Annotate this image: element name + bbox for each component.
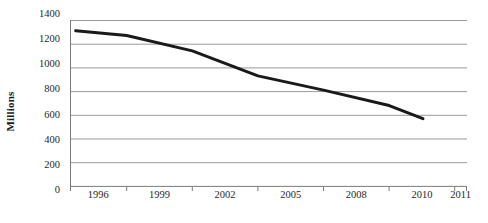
y-tick-label: 1200: [39, 34, 60, 45]
line-chart: Millions 1400 1200 1000 800 600 400 200 …: [0, 0, 488, 223]
y-axis-title: Millions: [2, 0, 18, 223]
x-tick-label: 2002: [215, 190, 236, 201]
x-tick-label: 1999: [149, 190, 170, 201]
x-tick-label: 2010: [411, 190, 432, 201]
x-tick-label: 2005: [280, 190, 301, 201]
x-axis-tick-labels: 1996 1999 2002 2005 2008 2010 2011: [70, 190, 467, 210]
y-tick-label: 0: [55, 185, 60, 196]
y-tick-label: 200: [44, 160, 60, 171]
x-tick-label: 2011: [450, 190, 471, 201]
y-tick-label: 600: [44, 109, 60, 120]
x-tick-label: 2008: [346, 190, 367, 201]
y-tick-label: 400: [44, 134, 60, 145]
x-tick-label: 1996: [88, 190, 109, 201]
plot-area: [70, 20, 467, 186]
y-tick-label: 800: [44, 84, 60, 95]
axis-lines: [70, 20, 467, 186]
y-tick-label: 1400: [39, 9, 60, 20]
plot-svg: [70, 20, 467, 192]
gridlines: [70, 21, 467, 163]
y-axis-tick-labels: 1400 1200 1000 800 600 400 200 0: [18, 14, 64, 190]
y-tick-label: 1000: [39, 59, 60, 70]
